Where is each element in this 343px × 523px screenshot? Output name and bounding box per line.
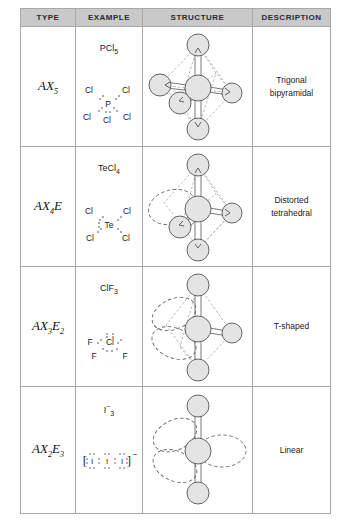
description-line-1: Linear	[253, 444, 330, 456]
column-header-type: TYPE	[21, 9, 76, 27]
cell-description: T-shaped	[253, 267, 331, 387]
cell-example: PCl5 Cl Cl P Cl Cl Cl	[76, 27, 143, 147]
table-row: AX2E3 I−3 [ I I I ] −	[21, 387, 331, 514]
column-header-description: DESCRIPTION	[253, 9, 331, 27]
cell-description: Distorted tetrahedral	[253, 147, 331, 267]
description-line-2: bipyramidal	[253, 87, 330, 99]
svg-text:Cl: Cl	[86, 233, 94, 243]
lewis-structure-clf3: F Cl F F	[76, 319, 142, 377]
svg-text:I: I	[106, 457, 108, 466]
table-row: AX4E TeCl4 Cl Cl Te Cl Cl	[21, 147, 331, 267]
lewis-structure-triiodide: [ I I I ] −	[76, 439, 142, 497]
cell-type: AX3E2	[21, 267, 76, 387]
type-formula: AX5	[38, 78, 58, 93]
svg-text:Cl: Cl	[85, 206, 93, 216]
column-header-structure: STRUCTURE	[143, 9, 253, 27]
type-formula: AX2E3	[32, 441, 64, 456]
structure-diagram-t-shaped	[146, 269, 250, 384]
description-line-1: T-shaped	[253, 320, 330, 332]
example-formula: I−3	[76, 403, 142, 417]
cell-description: Trigonal bipyramidal	[253, 27, 331, 147]
cell-example: TeCl4 Cl Cl Te Cl Cl	[76, 147, 143, 267]
svg-text:I: I	[121, 457, 123, 466]
svg-text:]: ]	[127, 453, 131, 468]
svg-text:Cl: Cl	[123, 206, 131, 216]
vsepr-geometry-table: TYPE EXAMPLE STRUCTURE DESCRIPTION AX5 P…	[20, 8, 331, 514]
structure-diagram-trigonal-bipyramidal	[146, 31, 250, 143]
cell-example: ClF3 F Cl F F	[76, 267, 143, 387]
type-formula: AX3E2	[32, 318, 64, 333]
cell-example: I−3 [ I I I ] −	[76, 387, 143, 514]
structure-diagram-seesaw	[146, 151, 250, 263]
table-header-row: TYPE EXAMPLE STRUCTURE DESCRIPTION	[21, 9, 331, 27]
svg-text:−: −	[133, 450, 138, 459]
description-line-1: Trigonal	[253, 74, 330, 86]
cell-structure	[143, 267, 253, 387]
table-row: AX3E2 ClF3 F Cl F F	[21, 267, 331, 387]
cell-structure	[143, 147, 253, 267]
svg-text:Cl: Cl	[122, 85, 130, 95]
example-formula: ClF3	[76, 283, 142, 295]
cell-description: Linear	[253, 387, 331, 514]
lewis-structure-pcl5: Cl Cl P Cl Cl Cl	[76, 79, 142, 137]
svg-text:Cl: Cl	[85, 85, 93, 95]
svg-text:F: F	[122, 351, 127, 361]
svg-text:F: F	[87, 337, 92, 347]
svg-text:Cl: Cl	[83, 112, 91, 122]
svg-text:Cl: Cl	[122, 233, 130, 243]
lewis-structure-tecl4: Cl Cl Te Cl Cl	[76, 199, 142, 257]
svg-text:Te: Te	[105, 220, 114, 230]
svg-text:Cl: Cl	[106, 337, 114, 347]
description-line-1: Distorted	[253, 194, 330, 206]
cell-structure	[143, 387, 253, 514]
table-row: AX5 PCl5 Cl Cl P Cl Cl Cl	[21, 27, 331, 147]
svg-text:Cl: Cl	[103, 115, 111, 125]
column-header-example: EXAMPLE	[76, 9, 143, 27]
example-formula: TeCl4	[76, 163, 142, 175]
svg-text:F: F	[91, 351, 96, 361]
cell-structure	[143, 27, 253, 147]
cell-type: AX4E	[21, 147, 76, 267]
structure-diagram-linear	[146, 390, 250, 510]
svg-text:P: P	[105, 99, 111, 109]
type-formula: AX4E	[34, 198, 62, 213]
description-line-2: tetrahedral	[253, 207, 330, 219]
svg-text:[: [	[83, 453, 87, 468]
cell-type: AX2E3	[21, 387, 76, 514]
example-formula: PCl5	[76, 43, 142, 55]
svg-text:Cl: Cl	[123, 112, 131, 122]
cell-type: AX5	[21, 27, 76, 147]
svg-text:I: I	[91, 457, 93, 466]
